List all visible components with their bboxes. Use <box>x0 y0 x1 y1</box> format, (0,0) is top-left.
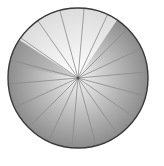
segmented-circle-figure <box>0 0 164 166</box>
center-hub <box>77 77 80 80</box>
circle-diagram <box>0 0 164 166</box>
